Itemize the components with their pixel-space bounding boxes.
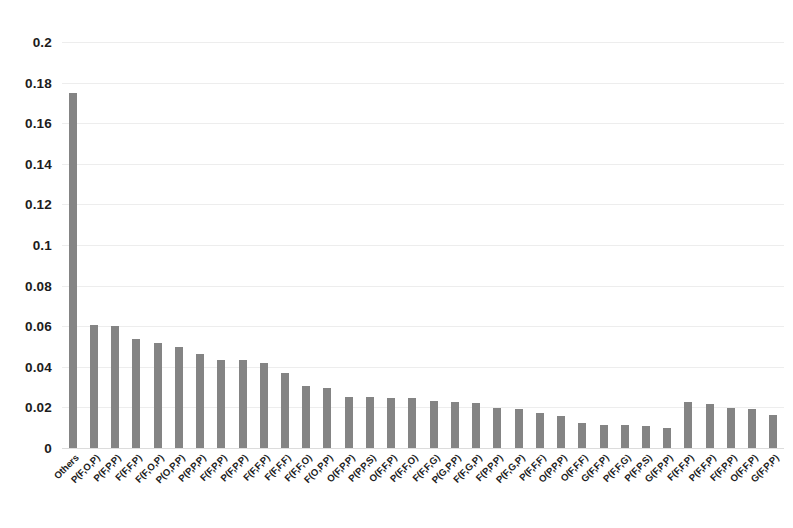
x-axis-tick: F(F,F,F) (274, 449, 295, 528)
bar (387, 398, 395, 448)
bar (578, 423, 586, 448)
plot-area (62, 42, 784, 448)
bar (366, 397, 374, 448)
x-axis-tick: P(F,F,F) (529, 449, 550, 528)
bar (69, 93, 77, 448)
x-axis-tick: O(F,F,P) (742, 449, 763, 528)
bar (217, 360, 225, 448)
x-axis-tick: P(F,F,G) (614, 449, 635, 528)
x-axis-tick: O(F,P,P) (338, 449, 359, 528)
bar (281, 373, 289, 448)
bar (472, 403, 480, 448)
bar (196, 354, 204, 448)
x-axis-tick: P(F,O,P) (83, 449, 104, 528)
x-axis-tick: Others (62, 449, 83, 528)
bar (769, 415, 777, 448)
bar (345, 397, 353, 448)
bar (557, 416, 565, 448)
x-axis-tick: F(F,O,P) (147, 449, 168, 528)
x-axis-tick: F(F,F,P) (253, 449, 274, 528)
x-axis-tick: F(F,F,P) (678, 449, 699, 528)
y-axis-tick-label: 0.04 (0, 359, 52, 374)
y-axis: 00.020.040.060.080.10.120.140.160.180.2 (0, 0, 62, 528)
x-axis-tick: F(F,F,G) (423, 449, 444, 528)
x-axis-tick: P(F,F,P) (699, 449, 720, 528)
x-axis-tick: F(F,P,P) (211, 449, 232, 528)
y-axis-tick-label: 0 (0, 441, 52, 456)
bar (451, 402, 459, 448)
x-axis-tick: F(O,P,P) (317, 449, 338, 528)
x-axis-tick: P(G,P,P) (444, 449, 465, 528)
x-axis-tick: P(F,F,O) (402, 449, 423, 528)
x-axis-tick: P(F,P,P) (104, 449, 125, 528)
bar (90, 325, 98, 448)
bar (132, 339, 140, 448)
bar (260, 363, 268, 448)
x-axis-tick: F(F,F,P) (126, 449, 147, 528)
x-axis-tick: G(F,F,P) (593, 449, 614, 528)
y-axis-tick-label: 0.08 (0, 278, 52, 293)
y-axis-tick-label: 0.12 (0, 197, 52, 212)
x-axis-tick: P(P,P,P) (189, 449, 210, 528)
bar (536, 413, 544, 448)
bars-group (62, 42, 784, 448)
x-axis: OthersP(F,O,P)P(F,P,P)F(F,F,P)F(F,O,P)P(… (62, 449, 784, 528)
x-axis-tick: G(F,P,P) (657, 449, 678, 528)
bar (684, 402, 692, 448)
y-axis-tick-label: 0.06 (0, 319, 52, 334)
bar (430, 401, 438, 448)
bar (111, 326, 119, 448)
y-axis-tick-label: 0.14 (0, 156, 52, 171)
x-axis-tick: O(F,F,F) (572, 449, 593, 528)
bar (239, 360, 247, 448)
y-axis-tick-label: 0.16 (0, 116, 52, 131)
bar (600, 425, 608, 448)
bar (727, 408, 735, 448)
bar (706, 404, 714, 448)
x-axis-tick: P(O,P,P) (168, 449, 189, 528)
bar (663, 428, 671, 448)
x-axis-tick: O(P,P,P) (550, 449, 571, 528)
bar (154, 343, 162, 448)
x-axis-tick: F(F,F,O) (296, 449, 317, 528)
bar (493, 408, 501, 448)
bar (515, 409, 523, 448)
x-axis-tick: P(F,G,P) (508, 449, 529, 528)
y-axis-tick-label: 0.2 (0, 35, 52, 50)
y-axis-tick-label: 0.02 (0, 400, 52, 415)
x-axis-tick: F(F,G,P) (465, 449, 486, 528)
x-axis-tick: P(F,P,S) (635, 449, 656, 528)
x-axis-tick: P(F,P,P) (232, 449, 253, 528)
bar (302, 386, 310, 448)
bar (408, 398, 416, 448)
x-axis-tick: P(P,P,S) (359, 449, 380, 528)
bar (748, 409, 756, 448)
bar (642, 426, 650, 448)
y-axis-tick-label: 0.18 (0, 75, 52, 90)
bar (621, 425, 629, 448)
y-axis-tick-label: 0.1 (0, 238, 52, 253)
x-axis-tick: G(F,P,P) (763, 449, 784, 528)
bar (323, 388, 331, 448)
x-axis-tick: F(P,P,P) (487, 449, 508, 528)
bar-chart: 00.020.040.060.080.10.120.140.160.180.2 … (0, 0, 793, 528)
bar (175, 347, 183, 449)
x-axis-tick: F(F,P,P) (720, 449, 741, 528)
x-axis-tick: O(F,F,P) (381, 449, 402, 528)
